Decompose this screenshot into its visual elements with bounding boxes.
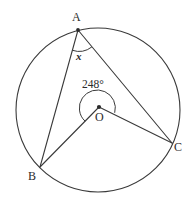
angle-label-x: x — [76, 51, 82, 62]
angle-label-reflex-248: 248° — [82, 79, 104, 91]
point-label-c: C — [174, 141, 182, 153]
diagram-canvas: A B C O x 248° — [0, 0, 193, 208]
point-label-a: A — [72, 11, 81, 23]
point-label-o: O — [95, 111, 104, 123]
point-label-b: B — [28, 170, 36, 182]
centre-dot-o — [97, 105, 101, 109]
vertex-dot-a — [76, 28, 80, 32]
radius-oc-line — [99, 107, 172, 143]
